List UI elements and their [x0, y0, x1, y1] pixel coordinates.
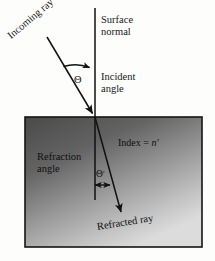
- incident-angle-label-line1: Incident: [101, 71, 135, 82]
- incident-angle-label: Incident angle: [101, 71, 135, 95]
- refraction-diagram-figure: Incoming ray Surface normal Incident ang…: [0, 0, 215, 261]
- surface-normal-label-line1: Surface: [101, 14, 133, 25]
- surface-normal-label-line2: normal: [101, 26, 131, 37]
- incident-angle-label-line2: angle: [101, 83, 124, 94]
- refraction-angle-label-line2: angle: [37, 163, 60, 174]
- incoming-ray-line: [47, 37, 93, 114]
- index-prefix-text: Index =: [118, 137, 151, 148]
- refraction-angle-label: Refraction angle: [37, 151, 81, 175]
- refraction-angle-label-line1: Refraction: [37, 151, 81, 162]
- theta-symbol-label: Θ: [74, 74, 82, 86]
- theta-prime-base: Θ: [96, 169, 103, 179]
- refractive-index-label: Index = n′: [118, 137, 159, 148]
- theta-prime-symbol-label: Θ′: [96, 169, 105, 180]
- incident-angle-arc: [64, 65, 90, 68]
- index-prime-mark: ′: [156, 137, 158, 148]
- surface-normal-label: Surface normal: [101, 14, 133, 38]
- theta-prime-mark: ′: [103, 170, 105, 179]
